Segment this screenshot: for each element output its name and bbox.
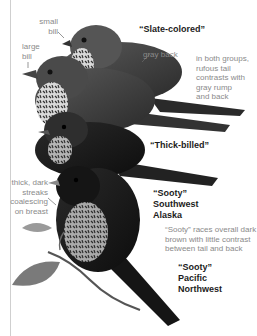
label-small-bill: small bill (30, 17, 58, 36)
label-large-bill: large bill (22, 42, 50, 61)
title-slate-colored: “Slate-colored” (139, 24, 205, 35)
title-thick-billed: “Thick-billed” (150, 140, 209, 151)
label-thick-streaks: thick, dark streaks coalescing on breast (4, 178, 48, 216)
title-sooty-pacific-nw: “Sooty” Pacific Northwest (178, 262, 222, 295)
label-sooty-note: “Sooty” races overall dark brown with li… (165, 225, 257, 254)
label-rufous-tail-note: in both groups, rufous tail contrasts wi… (196, 54, 256, 102)
label-gray-back: gray back (143, 50, 178, 60)
title-sooty-sw-alaska: “Sooty” Southwest Alaska (153, 188, 199, 221)
